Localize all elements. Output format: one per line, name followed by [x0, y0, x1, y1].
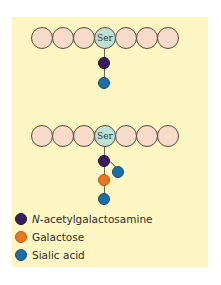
amino-acid-bead	[73, 27, 95, 49]
amino-acid-bead	[157, 27, 179, 49]
amino-acid-bead	[52, 27, 74, 49]
legend-item-galactose: Galactose	[15, 230, 84, 244]
galnac-swatch-icon	[15, 213, 27, 225]
legend-label: -acetylgalactosamine	[40, 213, 153, 225]
amino-acid-bead	[136, 27, 158, 49]
serine-bead: Ser	[94, 27, 116, 49]
amino-acid-bead	[136, 125, 158, 147]
amino-acid-bead	[115, 125, 137, 147]
galactose-swatch-icon	[15, 231, 27, 243]
sialic-acid-residue	[98, 77, 110, 89]
legend-item-sialic-acid: Sialic acid	[15, 248, 85, 262]
sialic-acid-residue	[98, 193, 110, 205]
galnac-residue	[98, 57, 110, 69]
amino-acid-bead	[73, 125, 95, 147]
amino-acid-bead	[52, 125, 74, 147]
amino-acid-bead	[31, 27, 53, 49]
galnac-residue	[98, 155, 110, 167]
legend-label: Sialic acid	[32, 249, 85, 261]
sialic-acid-residue	[112, 166, 124, 178]
legend-label-italic: N	[32, 213, 40, 225]
sialic-acid-swatch-icon	[15, 249, 27, 261]
amino-acid-bead	[157, 125, 179, 147]
serine-bead: Ser	[94, 125, 116, 147]
galactose-residue	[98, 174, 110, 186]
legend-label: Galactose	[32, 231, 84, 243]
amino-acid-bead	[115, 27, 137, 49]
legend-item-galnac: N-acetylgalactosamine	[15, 212, 153, 226]
amino-acid-bead	[31, 125, 53, 147]
